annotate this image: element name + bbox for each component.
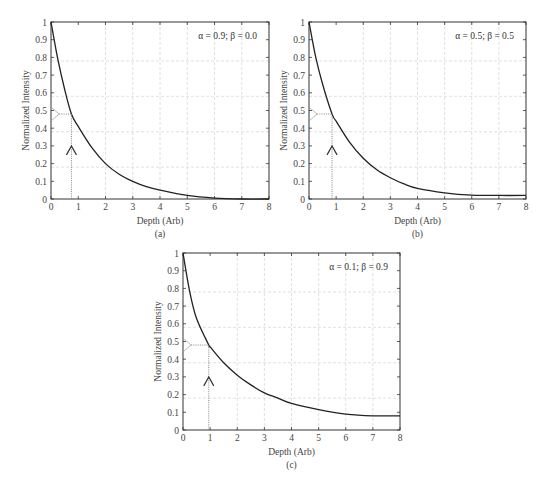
y-tick-label: 0.6 [293,88,305,98]
y-tick-label: 0.1 [35,177,47,187]
chevron-right-icon [184,339,191,351]
y-tick-label: 0.7 [167,302,179,312]
panel-caption: (a) [155,229,166,240]
y-tick-label: 0.3 [35,141,47,151]
x-tick-label: 7 [239,202,244,212]
y-axis-label: Normalized Intensity [153,301,163,382]
x-tick-label: 6 [469,202,474,212]
y-tick-label: 0.2 [293,159,305,169]
y-tick-label: 0.5 [167,337,179,347]
y-tick-label: 0.9 [167,266,179,276]
y-tick-label: 0.8 [167,284,179,294]
x-tick-label: 5 [316,433,321,443]
x-tick-label: 4 [289,433,294,443]
x-tick-label: 5 [185,202,190,212]
y-tick-label: 0.3 [293,141,305,151]
y-tick-label: 0 [174,426,179,436]
y-axis-label: Normalized Intensity [21,70,31,151]
panel-b: 01234567800.10.20.30.40.50.60.70.80.91De… [279,18,529,241]
y-tick-label: 0.1 [293,177,305,187]
panel-a: 01234567800.10.20.30.40.50.60.70.80.91De… [21,18,272,241]
x-tick-label: 1 [76,202,81,212]
x-tick-label: 1 [334,202,339,212]
y-tick-label: 0.3 [167,372,179,382]
y-tick-label: 0.2 [167,390,179,400]
x-tick-label: 4 [158,202,163,212]
y-tick-label: 0.6 [35,88,47,98]
x-axis-label: Depth (Arb) [394,216,441,227]
y-tick-label: 0.1 [167,408,179,418]
y-tick-label: 0.7 [293,71,305,81]
y-tick-label: 0.5 [293,106,305,116]
x-tick-label: 6 [343,433,348,443]
x-tick-label: 8 [267,202,272,212]
y-tick-label: 0.9 [35,35,47,45]
y-tick-label: 0.2 [35,159,47,169]
x-tick-label: 3 [262,433,267,443]
panel-c: 01234567800.10.20.30.40.50.60.70.80.91De… [153,249,403,472]
figure: 01234567800.10.20.30.40.50.60.70.80.91De… [0,0,549,494]
y-tick-label: 0.8 [35,53,47,63]
chevron-right-icon [310,108,317,120]
y-tick-label: 0.9 [293,35,305,45]
y-tick-label: 1 [42,18,47,28]
x-tick-label: 6 [212,202,217,212]
parameter-annotation: α = 0.1; β = 0.9 [329,262,388,272]
gridlines [51,22,269,199]
x-tick-label: 1 [208,433,213,443]
y-tick-label: 0 [42,195,47,205]
y-tick-label: 0.4 [167,355,179,365]
chevron-right-icon [52,108,59,120]
x-tick-label: 8 [398,433,403,443]
x-tick-label: 8 [524,202,529,212]
y-tick-label: 0.4 [293,124,305,134]
panel-caption: (b) [412,229,423,240]
x-tick-label: 0 [49,202,54,212]
x-tick-label: 5 [442,202,447,212]
parameter-annotation: α = 0.9; β = 0.0 [198,31,257,41]
x-axis-label: Depth (Arb) [137,216,184,227]
x-tick-label: 0 [307,202,312,212]
panel-caption: (c) [286,460,297,471]
y-tick-label: 0.8 [293,53,305,63]
x-tick-label: 3 [388,202,393,212]
x-tick-label: 7 [371,433,376,443]
x-tick-label: 2 [235,433,240,443]
x-tick-label: 2 [361,202,366,212]
y-tick-label: 0.4 [35,124,47,134]
y-tick-label: 0 [300,195,305,205]
parameter-annotation: α = 0.5; β = 0.5 [455,31,514,41]
y-tick-label: 0.7 [35,71,47,81]
x-tick-label: 0 [181,433,186,443]
gridlines [309,22,526,199]
x-axis-label: Depth (Arb) [268,447,315,458]
y-tick-label: 1 [300,18,305,28]
y-tick-label: 0.6 [167,319,179,329]
x-tick-label: 2 [103,202,108,212]
x-tick-label: 3 [130,202,135,212]
y-tick-label: 1 [174,249,179,259]
x-tick-label: 4 [415,202,420,212]
x-tick-label: 7 [497,202,502,212]
y-axis-label: Normalized Intensity [279,70,289,151]
y-tick-label: 0.5 [35,106,47,116]
